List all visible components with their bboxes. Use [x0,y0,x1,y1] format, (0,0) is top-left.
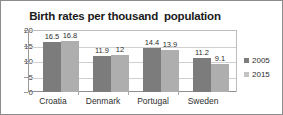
legend-swatch-2015-icon [244,72,249,77]
bar-label-croatia-2005: 16.5 [42,32,62,41]
bar-label-denmark-2005: 11.9 [92,46,112,55]
bar-denmark-2015 [111,55,129,92]
bar-label-portugal-2015: 13.9 [160,40,180,49]
bar-label-sweden-2005: 11.2 [192,48,212,57]
bar-label-sweden-2015: 9.1 [210,54,230,63]
x-label-sweden: Sweden [174,96,232,106]
bar-label-portugal-2005: 14.4 [142,38,162,47]
bar-croatia-2005 [43,42,61,92]
bar-portugal-2015 [161,50,179,92]
bar-portugal-2005 [143,48,161,92]
x-tick-3 [178,92,179,95]
bar-label-croatia-2015: 16.8 [60,31,80,40]
bar-label-denmark-2015: 12 [110,45,130,54]
legend-label-2015: 2015 [252,70,270,79]
chart-container: Birth rates per thousand population 20 1… [0,0,283,115]
bar-sweden-2015 [211,64,229,92]
y-tick-mark-0 [24,92,28,93]
plot-area: 16.5 16.8 11.9 12 14.4 13.9 11.2 9.1 [28,30,237,92]
legend-label-2005: 2005 [252,56,270,65]
bar-denmark-2005 [93,56,111,92]
chart-title: Birth rates per thousand population [1,10,249,22]
legend-swatch-2005-icon [244,58,249,63]
bar-sweden-2005 [193,58,211,92]
chart-legend: 2005 2015 [244,53,270,81]
x-tick-1 [78,92,79,95]
x-tick-2 [128,92,129,95]
legend-item-2015: 2015 [244,67,270,81]
bar-croatia-2015 [61,41,79,92]
legend-item-2005: 2005 [244,53,270,67]
